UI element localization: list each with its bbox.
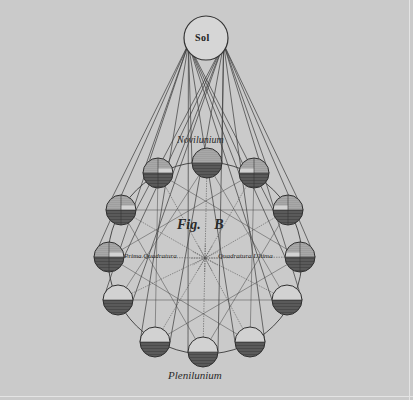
moon-prima-quadratura <box>94 242 124 272</box>
full-moon-label: Plenilunium <box>168 369 222 381</box>
moon-lower-left-1 <box>103 285 133 315</box>
new-moon-label: Novilunium <box>177 134 224 145</box>
moon-lower-right-2 <box>235 327 265 357</box>
sun-label: Sol <box>195 32 210 43</box>
moon-upper-left-2 <box>106 195 136 225</box>
moon-upper-right-2 <box>273 195 303 225</box>
moon-plenilunium <box>188 337 218 367</box>
moon-quadratura-ultima <box>285 242 315 272</box>
moon-upper-left-1 <box>143 158 173 188</box>
figure-label: Fig. B <box>177 217 224 233</box>
last-quarter-label: Quadratura Ultima <box>218 252 273 260</box>
first-quarter-label: Prima Quadratura <box>124 252 177 260</box>
figure-prefix: Fig. <box>177 217 201 232</box>
figure-letter: B <box>214 217 223 232</box>
moon-lower-left-2 <box>140 327 170 357</box>
moon-lower-right-1 <box>272 285 302 315</box>
lunar-phases-diagram <box>0 0 413 400</box>
moon-novilunium <box>192 148 222 178</box>
moon-upper-right-1 <box>239 158 269 188</box>
